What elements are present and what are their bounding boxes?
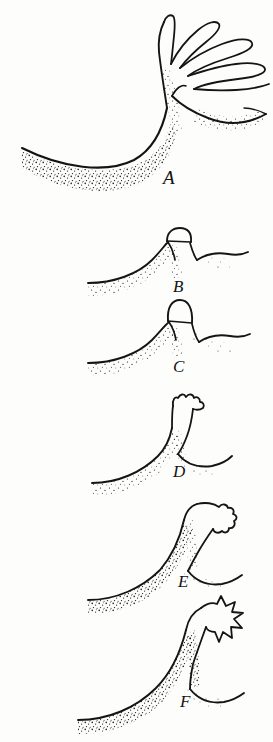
panel-b-cap-base (167, 241, 191, 242)
panel-f-stipple-column (186, 630, 200, 688)
panel-a-jet-3 (180, 39, 252, 76)
panel-f-drawing (78, 596, 244, 734)
illustration-canvas (0, 0, 273, 742)
panel-b-stipple-mound (166, 246, 182, 278)
panel-label-e: E (178, 573, 188, 590)
panel-c-stipple-left (88, 324, 176, 376)
panel-a-jet-2 (171, 22, 219, 68)
panel-c-stipple-right (190, 330, 232, 352)
panel-a-column-left-edge (159, 22, 167, 108)
panel-d-drawing (92, 394, 232, 496)
panel-a-stipple-left (22, 120, 176, 191)
panel-a-drawing (22, 15, 269, 191)
panel-d-crown-head (173, 394, 204, 409)
panel-c-tall-cap (168, 300, 192, 323)
panel-label-c: C (173, 358, 184, 375)
panel-f-column-left (186, 608, 201, 630)
panel-f-crown-spikes (201, 596, 243, 642)
panel-a-jet-1 (164, 15, 175, 64)
panel-b-dome-cap (167, 228, 191, 242)
panel-c-drawing (88, 300, 250, 376)
panel-e-crown-head (197, 503, 237, 533)
panel-a-jet-4 (188, 63, 265, 89)
panel-label-f: F (180, 693, 190, 710)
panel-b-drawing (88, 228, 248, 296)
panel-b-stipple-right (188, 246, 230, 268)
panel-label-b: B (173, 278, 183, 295)
splash-sequence-figure: A B C D E F (0, 0, 273, 742)
panel-label-a: A (163, 168, 175, 187)
panel-a-surface-left (22, 108, 167, 168)
panel-b-stipple-left (88, 244, 176, 296)
panel-d-column-left (172, 406, 173, 428)
panel-e-stipple-left (88, 524, 193, 614)
panel-e-column-left (184, 504, 197, 520)
panel-e-drawing (88, 503, 242, 614)
panel-c-cap-base (168, 321, 192, 323)
panel-label-d: D (173, 463, 185, 480)
